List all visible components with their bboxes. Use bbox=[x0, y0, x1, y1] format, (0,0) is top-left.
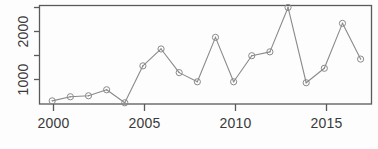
data-point-center bbox=[269, 51, 271, 53]
x-tick-label-2005: 2005 bbox=[129, 115, 161, 131]
data-point-center bbox=[142, 65, 144, 67]
data-point-center bbox=[360, 58, 362, 60]
data-point-center bbox=[178, 72, 180, 74]
data-point-center bbox=[51, 100, 53, 102]
data-point-center bbox=[215, 37, 217, 39]
data-point-center bbox=[287, 7, 289, 9]
data-point-center bbox=[342, 23, 344, 25]
data-markers bbox=[49, 4, 364, 106]
x-tick-label-2010: 2010 bbox=[220, 115, 252, 131]
data-point-center bbox=[88, 95, 90, 97]
data-point-center bbox=[106, 89, 108, 91]
chart-container: 2000 1000 2000 2005 2010 2015 bbox=[0, 0, 378, 149]
x-axis-ticks bbox=[54, 104, 327, 111]
x-tick-label-2015: 2015 bbox=[311, 115, 343, 131]
data-point-center bbox=[233, 81, 235, 83]
y-axis-ticks bbox=[34, 8, 40, 80]
plot-frame bbox=[40, 6, 372, 105]
data-point-center bbox=[70, 96, 72, 98]
data-point-center bbox=[160, 48, 162, 50]
data-point-center bbox=[305, 82, 307, 84]
y-tick-label-2000: 2000 bbox=[15, 16, 31, 48]
x-tick-label-2000: 2000 bbox=[38, 115, 70, 131]
y-tick-label-1000: 1000 bbox=[15, 64, 31, 96]
data-point-center bbox=[197, 81, 199, 83]
line-chart: 2000 1000 2000 2005 2010 2015 bbox=[0, 0, 378, 149]
data-line bbox=[52, 7, 360, 102]
data-point-center bbox=[251, 55, 253, 57]
data-point-center bbox=[124, 102, 126, 104]
data-point-center bbox=[324, 68, 326, 70]
